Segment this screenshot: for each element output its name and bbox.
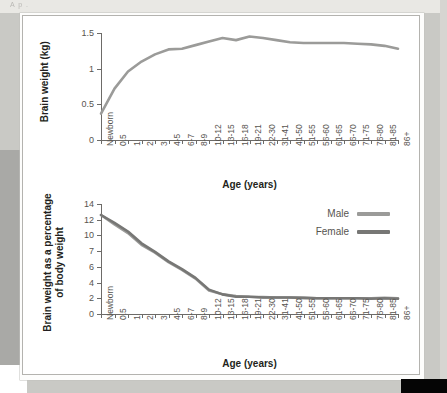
chart-1-x-tick-label: 0.5 bbox=[118, 308, 128, 320]
figure-frame: Brain weight (kg) 00.511.5Newborn0.51234… bbox=[22, 15, 420, 375]
chart-1-x-tick bbox=[182, 314, 183, 318]
chart-0-x-tick bbox=[277, 140, 278, 144]
chart-1-x-tick-label: 66-70 bbox=[348, 298, 358, 320]
chart-1-x-tick-label: 4-5 bbox=[172, 308, 182, 320]
chart-1-x-tick-label: 3 bbox=[159, 315, 169, 320]
chart-1-y-tick bbox=[97, 204, 101, 205]
chart-0-x-tick bbox=[250, 140, 251, 144]
chart-1-x-tick-label: 22-30 bbox=[267, 298, 277, 320]
legend-swatch-female bbox=[357, 230, 390, 234]
chart-0-x-tick-label: 19-21 bbox=[253, 124, 263, 146]
chart-1-x-tick bbox=[209, 314, 210, 318]
chart-1-y-tick bbox=[97, 298, 101, 299]
chart-0-y-tick bbox=[97, 69, 101, 70]
page-corner-block bbox=[401, 379, 447, 393]
page-top-artifact: A p . bbox=[0, 0, 447, 13]
chart-0-x-tick-label: 31-41 bbox=[280, 124, 290, 146]
chart-1-x-tick bbox=[398, 314, 399, 318]
chart-1-x-tick bbox=[371, 314, 372, 318]
chart-0-x-tick bbox=[398, 140, 399, 144]
chart-1-y-tick-label: 4 bbox=[89, 278, 94, 288]
chart-0-x-tick bbox=[142, 140, 143, 144]
chart-0-y-tick-label: 1.5 bbox=[81, 28, 94, 38]
chart-0-x-tick-label: 1 bbox=[132, 141, 142, 146]
chart-brain-weight-percentage: Brain weight as a percentage of body wei… bbox=[23, 196, 419, 374]
chart-0-x-tick bbox=[169, 140, 170, 144]
figure-page: Brain weight (kg) 00.511.5Newborn0.51234… bbox=[20, 13, 424, 380]
chart-0-x-tick-label: 66-70 bbox=[348, 124, 358, 146]
chart-1-x-tick-label: Newborn bbox=[105, 286, 115, 320]
chart-0-x-tick bbox=[115, 140, 116, 144]
chart-1-x-tick-label: 16-18 bbox=[240, 298, 250, 320]
legend-label-male: Male bbox=[327, 208, 349, 219]
chart-0-x-tick-label: 8-9 bbox=[199, 134, 209, 146]
chart-0-x-tick-label: 6-7 bbox=[186, 134, 196, 146]
chart-0-y-tick-label: 1 bbox=[89, 64, 94, 74]
chart-1-y-tick-label: 2 bbox=[89, 293, 94, 303]
chart-0-x-tick bbox=[182, 140, 183, 144]
chart-0-x-tick bbox=[155, 140, 156, 144]
chart-1-x-tick bbox=[142, 314, 143, 318]
chart-0-x-tick bbox=[358, 140, 359, 144]
chart-0-x-tick-label: 2 bbox=[145, 141, 155, 146]
chart-0-y-tick bbox=[97, 33, 101, 34]
legend-entry-female: Female bbox=[316, 226, 390, 237]
chart-1-y-tick bbox=[97, 267, 101, 268]
chart-0-x-tick-label: 51-55 bbox=[307, 124, 317, 146]
chart-1-x-tick bbox=[196, 314, 197, 318]
chart-0-x-tick-label: 22-30 bbox=[267, 124, 277, 146]
chart-0-x-tick bbox=[371, 140, 372, 144]
artifact-text-left: A p . bbox=[10, 1, 29, 8]
chart-0-x-tick bbox=[196, 140, 197, 144]
chart-0-x-axis-title: Age (years) bbox=[101, 179, 398, 190]
chart-0-x-tick-label: 86+ bbox=[402, 132, 412, 146]
chart-1-x-tick-label: 76-80 bbox=[375, 298, 385, 320]
chart-1-y-tick-label: 14 bbox=[84, 199, 94, 209]
chart-0-x-tick-label: 81-85 bbox=[388, 124, 398, 146]
chart-1-y-tick-label: 10 bbox=[84, 230, 94, 240]
chart-1-x-tick-label: 41-50 bbox=[294, 298, 304, 320]
chart-1-x-tick bbox=[169, 314, 170, 318]
chart-0-x-tick-label: 76-80 bbox=[375, 124, 385, 146]
chart-1-x-tick bbox=[101, 314, 102, 318]
chart-1-y-tick bbox=[97, 283, 101, 284]
chart-1-y-tick bbox=[97, 251, 101, 252]
chart-0-x-tick bbox=[344, 140, 345, 144]
chart-1-x-tick-label: 71-75 bbox=[361, 298, 371, 320]
chart-1-x-tick bbox=[358, 314, 359, 318]
chart-1-x-tick bbox=[331, 314, 332, 318]
chart-1-x-tick-label: 19-21 bbox=[253, 298, 263, 320]
chart-1-x-axis-title: Age (years) bbox=[101, 358, 398, 369]
chart-1-x-tick-label: 1 bbox=[132, 315, 142, 320]
chart-1-x-tick bbox=[236, 314, 237, 318]
chart-1-x-tick-label: 81-85 bbox=[388, 298, 398, 320]
chart-1-y-tick-label: 7 bbox=[89, 246, 94, 256]
chart-0-x-tick bbox=[331, 140, 332, 144]
chart-1-x-tick-label: 6-7 bbox=[186, 308, 196, 320]
chart-1-x-tick-label: 10-12 bbox=[213, 298, 223, 320]
chart-1-y-tick bbox=[97, 220, 101, 221]
chart-0-x-tick bbox=[236, 140, 237, 144]
chart-1-x-tick-label: 2 bbox=[145, 315, 155, 320]
chart-1-x-tick-label: 31-41 bbox=[280, 298, 290, 320]
chart-0-y-tick-label: 0 bbox=[89, 135, 94, 145]
chart-0-x-tick bbox=[304, 140, 305, 144]
chart-0-x-tick bbox=[128, 140, 129, 144]
chart-0-line-male bbox=[101, 37, 398, 114]
chart-0-x-tick bbox=[223, 140, 224, 144]
chart-1-x-tick bbox=[115, 314, 116, 318]
chart-1-x-tick-label: 56-60 bbox=[321, 298, 331, 320]
chart-1-x-tick bbox=[277, 314, 278, 318]
chart-1-x-tick-label: 86+ bbox=[402, 306, 412, 320]
chart-0-x-tick-label: 4-5 bbox=[172, 134, 182, 146]
chart-0-x-tick bbox=[263, 140, 264, 144]
chart-1-x-tick-label: 13-15 bbox=[226, 298, 236, 320]
chart-0-x-tick bbox=[101, 140, 102, 144]
chart-1-y-tick-label: 12 bbox=[84, 215, 94, 225]
chart-0-x-tick-label: 71-75 bbox=[361, 124, 371, 146]
chart-1-plot-area: Male Female 02467101214Newborn0.51234-56… bbox=[101, 204, 398, 314]
chart-0-x-tick bbox=[290, 140, 291, 144]
chart-0-x-tick-label: 41-50 bbox=[294, 124, 304, 146]
chart-0-y-tick-label: 0.5 bbox=[81, 99, 94, 109]
chart-1-x-tick-label: 8-9 bbox=[199, 308, 209, 320]
